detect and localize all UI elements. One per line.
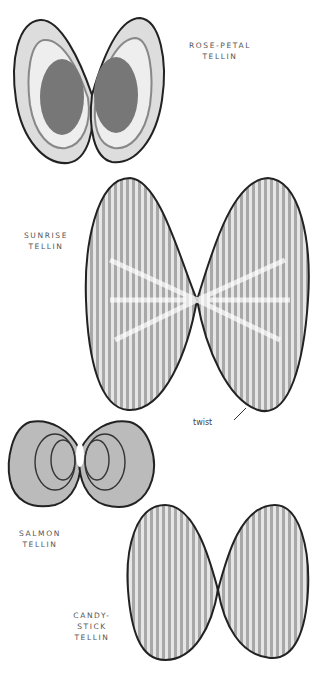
sunrise-tellin-label: SUNRISE TELLIN bbox=[18, 230, 74, 252]
label-line: STICK bbox=[62, 621, 122, 632]
twist-annotation: twist bbox=[193, 418, 212, 427]
label-line: ROSE-PETAL bbox=[178, 40, 262, 51]
label-line: TELLIN bbox=[8, 539, 72, 550]
candy-stick-tellin-label: CANDY- STICK TELLIN bbox=[62, 610, 122, 643]
salmon-tellin-shell bbox=[9, 421, 154, 507]
candy-stick-tellin-shell bbox=[127, 505, 308, 660]
label-line: TELLIN bbox=[62, 632, 122, 643]
label-line: TELLIN bbox=[178, 51, 262, 62]
label-line: SUNRISE bbox=[18, 230, 74, 241]
rose-petal-tellin-shell bbox=[14, 18, 164, 163]
label-line: CANDY- bbox=[62, 610, 122, 621]
rose-petal-tellin-label: ROSE-PETAL TELLIN bbox=[178, 40, 262, 62]
salmon-tellin-label: SALMON TELLIN bbox=[8, 528, 72, 550]
label-line: SALMON bbox=[8, 528, 72, 539]
shell-plate bbox=[0, 0, 331, 689]
sunrise-tellin-shell bbox=[86, 178, 309, 420]
label-line: TELLIN bbox=[18, 241, 74, 252]
